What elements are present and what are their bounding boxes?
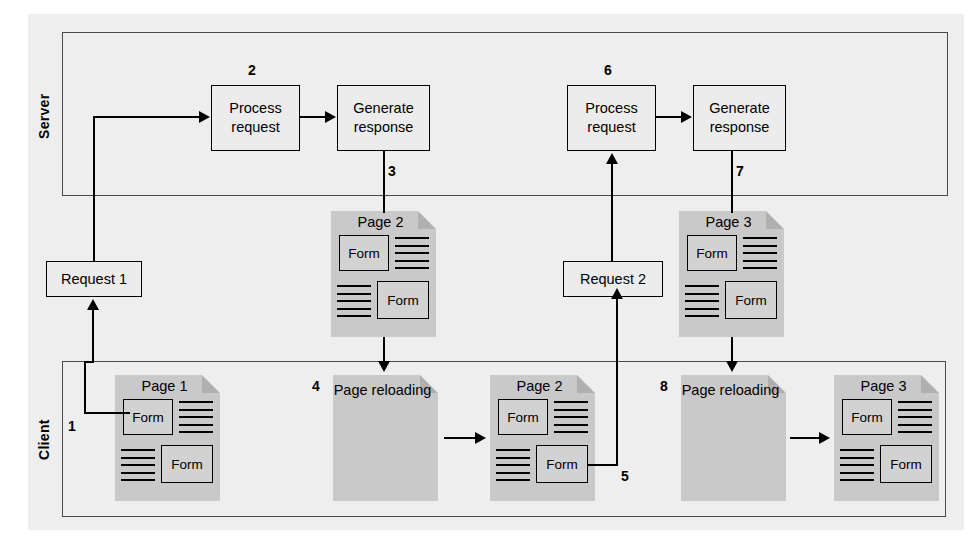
- text-lines: [121, 449, 155, 481]
- client-page-1-document: Page 1 Form Form: [115, 375, 220, 501]
- server-zone: [62, 32, 948, 196]
- text-lines: [395, 237, 429, 269]
- connector-process-to-generate-2: [656, 116, 682, 118]
- page-reloading-2-line1: Page: [682, 382, 716, 398]
- server-zone-label: Server: [36, 76, 52, 156]
- connector-request1-to-process: [93, 116, 200, 118]
- form-box: Form: [536, 445, 588, 483]
- connector-reloading1-to-page2: [444, 437, 476, 439]
- arrow-up-to-request1: [87, 299, 99, 310]
- process-request-line1: Process: [229, 99, 281, 118]
- connector-form-to-request2-v: [616, 299, 618, 465]
- step-number-7: 7: [736, 163, 744, 179]
- arrow-right-to-process-request-1: [199, 111, 210, 123]
- generate-response-2-line1: Generate: [709, 99, 769, 118]
- connector-form-to-request2-h: [588, 464, 618, 466]
- server-page-2-title: Page 2: [331, 214, 436, 230]
- process-request-2-line1: Process: [585, 99, 637, 118]
- connector-request2-up: [611, 164, 613, 262]
- process-request-box-1: Process request: [211, 85, 300, 151]
- page-reloading-line2: reloading: [372, 382, 432, 398]
- arrow-right-to-client-page-3: [819, 432, 830, 444]
- step-number-2: 2: [248, 62, 256, 78]
- step-number-5: 5: [621, 468, 629, 484]
- connector-reloading2-to-page3: [790, 437, 820, 439]
- client-page-1-title: Page 1: [115, 378, 220, 394]
- connector-request1-up: [93, 118, 95, 262]
- server-page-3-document: Page 3 Form Form: [679, 211, 784, 337]
- page-reloading-title-1: Page reloading: [333, 381, 438, 400]
- form-box: Form: [377, 281, 429, 319]
- diagram-canvas: Server 2 Process request Generate respon…: [0, 0, 978, 544]
- client-page-reloading-1: Page reloading: [333, 375, 438, 501]
- request-1-label: Request 1: [61, 270, 127, 289]
- form-box: Form: [725, 281, 777, 319]
- connector-generate2-down-to-page3: [731, 151, 733, 213]
- step-number-4: 4: [312, 378, 320, 394]
- process-request-box-2: Process request: [567, 85, 656, 151]
- connector-form-to-request1-jog: [84, 361, 94, 363]
- step-number-3: 3: [388, 163, 396, 179]
- request-1-box: Request 1: [46, 261, 142, 297]
- text-lines: [898, 401, 932, 433]
- server-page-3-title: Page 3: [679, 214, 784, 230]
- text-lines: [743, 237, 777, 269]
- step-number-1: 1: [68, 418, 76, 434]
- arrow-right-to-generate-response-2: [681, 111, 692, 123]
- step-number-6: 6: [604, 62, 612, 78]
- arrow-down-to-page-reloading-1: [378, 361, 390, 372]
- client-page-2-title: Page 2: [490, 378, 595, 394]
- process-request-line2: request: [231, 118, 279, 137]
- generate-response-box-1: Generate response: [337, 85, 430, 151]
- arrow-up-to-request2: [611, 288, 623, 299]
- text-lines: [685, 285, 719, 317]
- arrow-right-to-client-page-2: [475, 432, 486, 444]
- text-lines: [554, 401, 588, 433]
- form-box: Form: [161, 445, 213, 483]
- generate-response-2-line2: response: [710, 118, 770, 137]
- page-reloading-line1: Page: [334, 382, 368, 398]
- connector-process-to-generate-1: [300, 116, 326, 118]
- request-2-label: Request 2: [580, 270, 646, 289]
- client-page-reloading-2: Page reloading: [681, 375, 786, 501]
- page-reloading-title-2: Page reloading: [681, 381, 786, 400]
- arrow-down-to-page-reloading-2: [726, 361, 738, 372]
- step-number-8: 8: [660, 378, 668, 394]
- form-box: Form: [842, 399, 892, 435]
- connector-form-to-request1-v-left: [84, 362, 86, 414]
- client-page-3-document: Page 3 Form Form: [834, 375, 939, 501]
- server-page-2-document: Page 2 Form Form: [331, 211, 436, 337]
- arrow-up-to-process-request-2: [606, 153, 618, 164]
- connector-generate1-down-to-page2: [383, 151, 385, 213]
- connector-form-to-request1-v-up: [92, 310, 94, 362]
- form-box: Form: [880, 445, 932, 483]
- connector-form-to-request1-h: [84, 412, 130, 414]
- client-page-3-title: Page 3: [834, 378, 939, 394]
- text-lines: [496, 449, 530, 481]
- form-box: Form: [498, 399, 548, 435]
- form-box: Form: [687, 235, 737, 271]
- arrow-right-to-generate-response-1: [325, 111, 336, 123]
- client-zone-label: Client: [36, 405, 52, 475]
- page-reloading-2-line2: reloading: [720, 382, 780, 398]
- form-box: Form: [339, 235, 389, 271]
- generate-response-line1: Generate: [353, 99, 413, 118]
- client-page-2-document: Page 2 Form Form: [490, 375, 595, 501]
- text-lines: [179, 401, 213, 433]
- generate-response-box-2: Generate response: [693, 85, 786, 151]
- form-box: Form: [123, 399, 173, 435]
- generate-response-line2: response: [354, 118, 414, 137]
- text-lines: [840, 449, 874, 481]
- process-request-2-line2: request: [587, 118, 635, 137]
- text-lines: [337, 285, 371, 317]
